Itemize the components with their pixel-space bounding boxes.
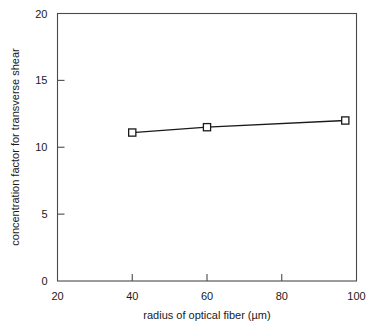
y-axis-title: concentration factor for transverse shea… [9,48,21,246]
y-tick-label-0: 0 [41,275,47,287]
chart-background [0,0,371,329]
x-tick-label-40: 40 [126,290,138,302]
x-axis-title: radius of optical fiber (µm) [143,309,270,321]
x-tick-label-20: 20 [51,290,63,302]
x-tick-label-80: 80 [276,290,288,302]
line-chart: 05101520 20406080100 radius of optical f… [0,0,371,329]
x-tick-label-100: 100 [347,290,365,302]
data-point-marker [342,117,349,124]
data-point-marker [129,129,136,136]
y-tick-label-5: 5 [41,208,47,220]
y-tick-label-10: 10 [35,141,47,153]
chart-figure: 05101520 20406080100 radius of optical f… [0,0,371,329]
data-point-marker [203,124,210,131]
y-tick-label-20: 20 [35,8,47,20]
x-tick-label-60: 60 [201,290,213,302]
y-tick-label-15: 15 [35,74,47,86]
